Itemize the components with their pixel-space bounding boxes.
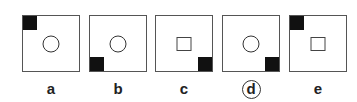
- square-icon: [177, 37, 192, 51]
- option-c-figure: [155, 15, 213, 72]
- black-corner-square-icon: [290, 16, 304, 30]
- option-b-label: b: [89, 80, 147, 98]
- option-e[interactable]: e: [289, 15, 347, 102]
- square-icon: [311, 37, 326, 51]
- black-corner-square-icon: [23, 16, 37, 30]
- option-a-figure: [22, 15, 80, 72]
- circle-icon: [43, 35, 60, 52]
- option-a[interactable]: a: [22, 15, 80, 102]
- circle-icon: [243, 35, 260, 52]
- black-corner-square-icon: [198, 57, 212, 71]
- option-e-label: e: [289, 80, 347, 98]
- option-c[interactable]: c: [155, 15, 213, 102]
- option-e-figure: [289, 15, 347, 72]
- option-c-label: c: [155, 80, 213, 98]
- option-d-label-circled: d: [222, 80, 280, 99]
- option-d-figure: [222, 15, 280, 72]
- option-a-label: a: [22, 80, 80, 98]
- option-d[interactable]: d: [222, 15, 280, 102]
- black-corner-square-icon: [90, 57, 104, 71]
- option-b-figure: [89, 15, 147, 72]
- option-b[interactable]: b: [89, 15, 147, 102]
- black-corner-square-icon: [265, 57, 279, 71]
- circle-icon: [110, 35, 127, 52]
